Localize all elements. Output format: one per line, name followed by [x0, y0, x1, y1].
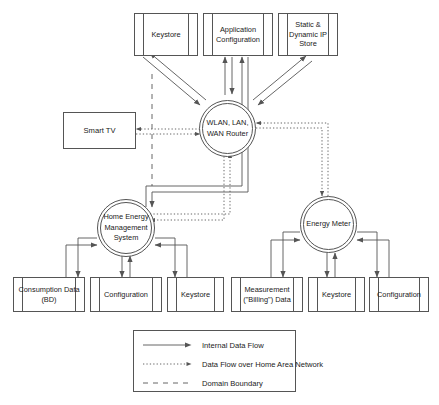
data-store-static-dynamic-ip-store-label: Static & Dynamic IP Store — [280, 20, 336, 50]
store-rail-left — [176, 278, 177, 311]
store-rail-right — [188, 14, 189, 55]
data-store-keystore-left[interactable]: Keystore — [167, 277, 224, 312]
edge-hems-keystore-left — [155, 238, 187, 277]
entity-smart-tv[interactable]: Smart TV — [63, 112, 136, 149]
process-energy-meter[interactable]: Energy Meter — [300, 196, 357, 253]
store-rail-left — [99, 278, 100, 311]
store-rail-right — [152, 278, 153, 311]
data-store-keystore-right[interactable]: Keystore — [308, 277, 365, 312]
data-store-measurement-billing-data-label: Measurement ("Billing") Data — [233, 285, 301, 305]
dashed-line-icon — [142, 378, 194, 388]
process-energy-meter-label: Energy Meter — [302, 219, 354, 230]
process-home-energy-management-system-label: Home Energy Management System — [98, 212, 154, 244]
diagram-canvas: Keystore Application Configuration Stati… — [0, 0, 439, 405]
process-home-energy-management-system[interactable]: Home Energy Management System — [97, 199, 155, 257]
edge-router-hems — [150, 153, 230, 220]
store-rail-left — [143, 14, 144, 55]
edge-router-application-configuration — [225, 57, 232, 95]
legend-item-domain-boundary-label: Domain Boundary — [202, 379, 263, 388]
process-wlan-lan-wan-router[interactable]: WLAN, LAN, WAN Router — [199, 100, 256, 157]
legend-item-data-flow-over-han-label: Data Flow over Home Area Network — [202, 360, 323, 369]
data-store-keystore-left-label: Keystore — [179, 290, 212, 300]
data-store-consumption-data[interactable]: Consumption Data (BD) — [13, 277, 85, 312]
process-wlan-lan-wan-router-label: WLAN, LAN, WAN Router — [200, 118, 255, 139]
data-store-consumption-data-label: Consumption Data (BD) — [15, 285, 83, 305]
edge-energy-meter-keystore-right — [327, 253, 335, 277]
legend-item-domain-boundary: Domain Boundary — [142, 375, 263, 391]
store-rail-right — [355, 278, 356, 311]
data-store-configuration-right-label: Configuration — [375, 290, 423, 300]
legend-item-data-flow-over-han: Data Flow over Home Area Network — [142, 356, 323, 372]
edge-router-energy-meter — [256, 123, 328, 196]
data-store-application-configuration[interactable]: Application Configuration — [203, 13, 273, 56]
edge-router-smart-tv — [136, 129, 200, 134]
legend-item-internal-data-flow: Internal Data Flow — [142, 337, 264, 353]
edge-router-static-dynamic-ip-store — [253, 56, 312, 105]
data-store-application-configuration-label: Application Configuration — [205, 25, 271, 45]
data-store-configuration-right[interactable]: Configuration — [369, 277, 429, 312]
edge-hems-configuration-left — [122, 256, 130, 277]
edge-energy-meter-measurement-billing-data — [271, 232, 300, 277]
data-store-keystore-top-label: Keystore — [149, 30, 182, 40]
dotted-arrow-icon — [142, 359, 194, 369]
edge-energy-meter-configuration-right — [357, 232, 389, 277]
legend-item-internal-data-flow-label: Internal Data Flow — [202, 341, 264, 350]
data-store-measurement-billing-data[interactable]: Measurement ("Billing") Data — [231, 277, 303, 312]
store-rail-left — [317, 278, 318, 311]
data-store-static-dynamic-ip-store[interactable]: Static & Dynamic IP Store — [278, 13, 338, 56]
data-store-keystore-right-label: Keystore — [320, 290, 353, 300]
store-rail-right — [214, 278, 215, 311]
data-store-configuration-left[interactable]: Configuration — [90, 277, 162, 312]
legend-panel: Internal Data Flow Data Flow over Home A… — [133, 330, 296, 392]
solid-arrow-icon — [142, 340, 194, 350]
data-store-configuration-left-label: Configuration — [102, 290, 150, 300]
edge-hems-consumption-data — [66, 238, 97, 277]
data-store-keystore-top[interactable]: Keystore — [134, 13, 198, 56]
entity-smart-tv-label: Smart TV — [84, 126, 116, 135]
